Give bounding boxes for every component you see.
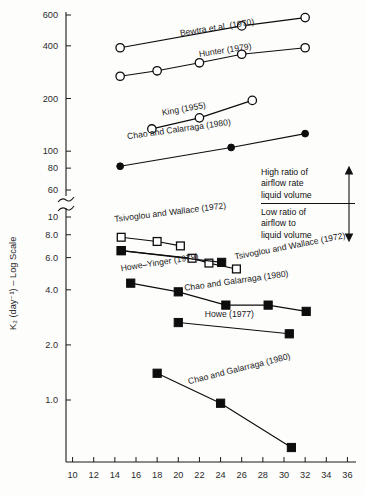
- series-line: [157, 373, 291, 447]
- y-axis-title: K₂ (day⁻¹) – Log Scale: [8, 237, 18, 330]
- series-label: Chao and Galarraga (1980): [187, 351, 292, 386]
- open-circle-marker: [116, 44, 124, 52]
- series-label: Chao and Calarraga (1980): [126, 117, 231, 141]
- y-tick-label: 2.0: [45, 340, 58, 350]
- filled-square-marker: [285, 330, 293, 338]
- x-tick-label: 14: [110, 470, 120, 480]
- x-tick-label: 26: [237, 470, 247, 480]
- low-ratio-line-1: Low ratio of: [261, 207, 341, 218]
- x-tick-label: 16: [131, 470, 141, 480]
- y-tick-label: 400: [43, 41, 58, 51]
- x-tick-label: 20: [173, 470, 183, 480]
- x-tick-label: 22: [194, 470, 204, 480]
- series-4: [117, 233, 184, 249]
- filled-circle-marker: [228, 144, 235, 151]
- open-circle-marker: [301, 13, 309, 21]
- up-down-arrow-icon: [341, 166, 357, 242]
- filled-square-marker: [302, 307, 310, 315]
- y-tick-label: 6.0: [45, 253, 58, 263]
- open-square-marker: [117, 233, 125, 241]
- y-tick-label: 10: [48, 212, 58, 222]
- series-label: Howe (1977): [205, 309, 254, 319]
- x-tick-label: 32: [300, 470, 310, 480]
- x-tick-label: 10: [67, 470, 77, 480]
- filled-square-marker: [153, 369, 161, 377]
- axis-break-upper: [58, 197, 74, 202]
- y-tick-label: 8.0: [45, 230, 58, 240]
- x-tick-label: 12: [89, 470, 99, 480]
- filled-square-marker: [127, 279, 135, 287]
- y-tick-label: 80: [48, 163, 58, 173]
- series-9: [153, 369, 295, 451]
- open-square-marker: [233, 265, 241, 273]
- open-circle-marker: [248, 96, 256, 104]
- series-line: [120, 134, 305, 167]
- open-circle-marker: [301, 44, 309, 52]
- filled-circle-marker: [117, 163, 124, 170]
- high-ratio-annotation: High ratio of airflow rate liquid volume: [261, 167, 341, 201]
- filled-square-marker: [287, 443, 295, 451]
- y-axis-title-text: K₂ (day⁻¹) – Log Scale: [8, 237, 18, 330]
- open-circle-marker: [116, 72, 124, 80]
- x-tick-label: 30: [279, 470, 289, 480]
- high-ratio-line-1: High ratio of: [261, 167, 341, 178]
- open-square-marker: [153, 238, 161, 246]
- series-label: Tsivoglou and Wallace (1972): [114, 200, 227, 224]
- chart-figure: 6004002001008060108.06.04.02.01.01012141…: [0, 0, 365, 495]
- filled-circle-marker: [302, 130, 309, 137]
- low-ratio-line-3: liquid volume: [261, 230, 341, 241]
- open-square-marker: [177, 242, 185, 250]
- x-tick-label: 28: [258, 470, 268, 480]
- series-line: [178, 323, 289, 334]
- filled-square-marker: [218, 258, 226, 266]
- y-tick-label: 60: [48, 185, 58, 195]
- x-tick-label: 24: [215, 470, 225, 480]
- open-circle-marker: [153, 67, 161, 75]
- filled-square-marker: [174, 288, 182, 296]
- high-ratio-line-3: liquid volume: [261, 190, 341, 201]
- series-8: [174, 318, 293, 337]
- series-label: Bewtra et al. (1970): [179, 16, 255, 38]
- series-line: [121, 237, 180, 246]
- y-tick-label: 600: [43, 10, 58, 20]
- plot-area: 6004002001008060108.06.04.02.01.01012141…: [0, 0, 365, 495]
- y-tick-label: 1.0: [45, 395, 58, 405]
- low-ratio-line-2: airflow to: [261, 218, 341, 229]
- y-tick-label: 4.0: [45, 285, 58, 295]
- open-circle-marker: [195, 59, 203, 67]
- filled-square-marker: [264, 301, 272, 309]
- low-ratio-annotation: Low ratio of airflow to liquid volume: [261, 207, 341, 241]
- y-tick-label: 200: [43, 94, 58, 104]
- ratio-annotation-box: High ratio of airflow rate liquid volume…: [261, 166, 357, 242]
- x-tick-label: 36: [342, 470, 352, 480]
- filled-square-marker: [216, 399, 224, 407]
- x-tick-label: 34: [321, 470, 331, 480]
- x-tick-label: 18: [152, 470, 162, 480]
- high-ratio-line-2: airflow rate: [261, 178, 341, 189]
- filled-square-marker: [174, 318, 182, 326]
- y-tick-label: 100: [43, 146, 58, 156]
- filled-square-marker: [117, 247, 125, 255]
